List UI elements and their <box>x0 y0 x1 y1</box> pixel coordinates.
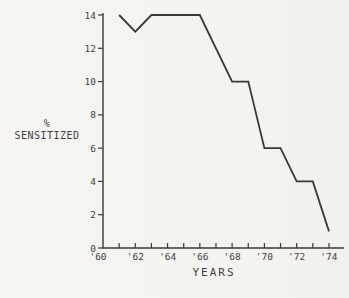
y-axis-title: % SENSITIZED <box>8 118 86 142</box>
y-axis-title-sensitized: SENSITIZED <box>8 130 86 142</box>
x-tick-label: '60 <box>89 251 106 262</box>
y-tick-label: 6 <box>90 143 96 154</box>
x-tick-label: '70 <box>256 251 273 262</box>
y-tick-label: 4 <box>90 176 96 187</box>
axes <box>103 13 344 248</box>
x-axis-title: YEARS <box>163 266 265 279</box>
scanned-figure: 02468101214'60'62'64'66'68'70'72'74 % SE… <box>0 0 349 298</box>
x-tick-label: '66 <box>191 251 208 262</box>
y-tick-label: 14 <box>85 10 97 21</box>
y-axis-title-percent: % <box>8 118 86 130</box>
x-tick-label: '62 <box>127 251 144 262</box>
y-tick-label: 8 <box>90 109 96 120</box>
x-tick-label: '72 <box>288 251 305 262</box>
data-series-line <box>119 15 329 231</box>
y-tick-label: 12 <box>85 43 96 54</box>
line-chart: 02468101214'60'62'64'66'68'70'72'74 <box>0 0 349 298</box>
y-tick-label: 2 <box>90 209 96 220</box>
y-tick-label: 10 <box>85 76 97 87</box>
x-tick-label: '68 <box>224 251 241 262</box>
x-tick-label: '74 <box>320 251 337 262</box>
x-tick-label: '64 <box>159 251 176 262</box>
